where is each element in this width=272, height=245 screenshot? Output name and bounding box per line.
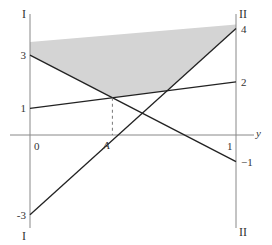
left-value-label: -3 [17,209,27,221]
shaded-region [30,25,236,98]
origin-label: 0 [34,140,40,152]
right-value-label: 4 [241,23,247,35]
left-value-label: 1 [21,102,27,114]
right-value-label: −1 [241,156,253,168]
axis-II-top-label: II [239,7,247,21]
axis-II-bottom-label: II [239,225,247,239]
axis-I-bottom-label: I [22,229,26,243]
diagram: I I II II y 0 1 A 3−112-34 [0,0,272,245]
point-A-label: A [102,139,110,151]
h-axis-label: y [255,127,261,139]
axis-I-top-label: I [22,7,26,21]
left-value-label: 3 [21,49,27,61]
one-label: 1 [227,140,233,152]
right-value-label: 2 [241,76,247,88]
